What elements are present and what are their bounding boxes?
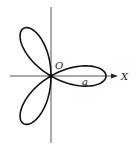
rose-curve-diagram: O X a (0, 0, 136, 156)
parameter-a-label: a (82, 76, 88, 87)
origin-point (49, 74, 53, 78)
origin-label: O (55, 60, 63, 71)
x-axis-arrow-icon (111, 74, 118, 79)
x-axis-label: X (120, 71, 129, 82)
